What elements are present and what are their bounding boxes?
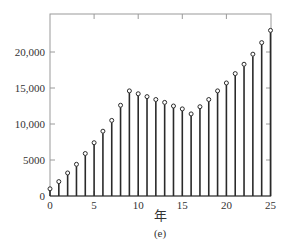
x-tick-label: 5 <box>91 199 97 211</box>
stem-marker <box>260 41 264 45</box>
stem-marker <box>163 100 167 104</box>
stem-marker <box>198 105 202 109</box>
stem-marker <box>57 180 61 184</box>
stem-marker <box>110 118 114 122</box>
stem-marker <box>92 141 96 145</box>
y-tick-label: 5000 <box>23 154 46 166</box>
stem-marker <box>154 98 158 102</box>
x-axis-ticks: 0510152025 <box>47 14 276 211</box>
stem-marker <box>269 28 273 32</box>
x-tick-label: 0 <box>47 199 53 211</box>
stem-chart: 0500010,00015,00020,000 0510152025 年 (e) <box>0 0 286 248</box>
stem-marker <box>66 171 70 175</box>
stem-marker <box>171 104 175 108</box>
stem-marker <box>180 107 184 111</box>
x-tick-label: 20 <box>221 199 233 211</box>
x-tick-label: 25 <box>265 199 277 211</box>
stem-marker <box>145 95 149 99</box>
plot-frame <box>50 14 271 196</box>
stem-marker <box>216 89 220 93</box>
stem-marker <box>224 81 228 85</box>
x-tick-label: 15 <box>177 199 189 211</box>
y-tick-label: 20,000 <box>15 46 46 58</box>
stem-marker <box>83 152 87 156</box>
stem-marker <box>251 52 255 56</box>
stem-marker <box>233 72 237 76</box>
stem-marker <box>136 92 140 96</box>
stem-marker <box>242 62 246 66</box>
y-tick-label: 0 <box>40 190 46 202</box>
y-tick-label: 10,000 <box>15 118 46 130</box>
y-tick-label: 15,000 <box>15 82 46 94</box>
stem-marker <box>189 112 193 116</box>
y-axis-ticks: 0500010,00015,00020,000 <box>15 46 271 202</box>
x-tick-label: 10 <box>133 199 145 211</box>
data-stems <box>48 28 273 196</box>
stem-marker <box>119 103 123 107</box>
stem-marker <box>74 162 78 166</box>
stem-marker <box>127 89 131 93</box>
x-axis-label: 年 <box>154 208 167 223</box>
stem-marker <box>101 129 105 133</box>
stem-marker <box>207 98 211 102</box>
stem-marker <box>48 187 52 191</box>
figure-caption: (e) <box>154 227 167 240</box>
